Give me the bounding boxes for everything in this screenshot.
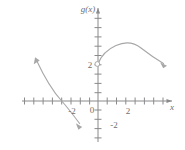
y-axis-label: g(x)	[81, 4, 96, 14]
open-circle-endpoint	[95, 62, 100, 67]
y-tick-label-positive-two: 2	[88, 60, 93, 70]
curve-right-branch	[98, 43, 164, 64]
x-tick-label-negative-two: -2	[68, 106, 76, 116]
y-axis-arrowhead	[96, 8, 100, 14]
x-tick-label-positive-two: 2	[126, 106, 131, 116]
left-branch-upper-arrowhead	[34, 57, 40, 64]
y-tick-label-negative-two: -2	[110, 120, 118, 130]
origin-label: 0	[90, 105, 95, 115]
left-branch-lower-arrowhead	[76, 123, 82, 130]
x-axis-label: x	[169, 102, 174, 112]
graph-canvas: g(x) x -2 2 0 2 -2	[0, 0, 185, 150]
graph-figure: g(x) x -2 2 0 2 -2	[0, 0, 185, 150]
